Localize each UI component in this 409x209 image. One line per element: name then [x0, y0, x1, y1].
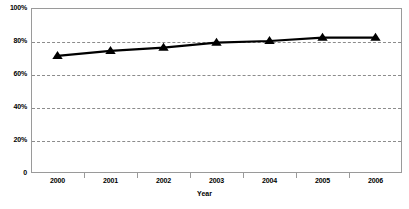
data-series-layer: [0, 0, 409, 209]
x-axis-title: Year: [0, 190, 409, 197]
line-chart: 020%40%60%80%100% 2000200120022003200420…: [0, 0, 409, 209]
